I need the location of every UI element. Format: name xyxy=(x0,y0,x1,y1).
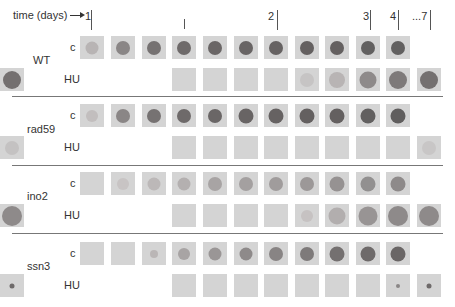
colony-spot xyxy=(3,71,21,89)
plate-tile xyxy=(172,204,196,227)
colony-spot xyxy=(117,178,129,190)
plate-tile xyxy=(325,274,349,297)
plate-tile xyxy=(264,274,288,297)
plate-tile xyxy=(111,172,135,195)
strain-label: ino2 xyxy=(27,190,48,202)
plate-tile xyxy=(325,68,349,91)
condition-label: c xyxy=(70,109,76,121)
plate-tile xyxy=(386,274,410,297)
colony-spot xyxy=(361,41,375,55)
colony-spot xyxy=(391,108,406,123)
plate-tile xyxy=(203,136,227,159)
plate-tile xyxy=(203,36,227,59)
panel-divider xyxy=(12,233,443,234)
plate-tile xyxy=(295,136,319,159)
day-tick xyxy=(277,10,278,30)
colony-spot xyxy=(420,71,438,89)
plate-tile xyxy=(142,172,166,195)
plate-tile xyxy=(142,36,166,59)
plate-tile xyxy=(234,274,258,297)
colony-spot xyxy=(116,41,130,55)
colony-spot xyxy=(396,284,400,288)
colony-spot xyxy=(388,206,408,226)
plate-tile xyxy=(356,68,380,91)
plate-tile xyxy=(356,172,380,195)
plate-tile xyxy=(0,68,24,91)
colony-spot xyxy=(391,176,406,191)
colony-spot xyxy=(389,71,407,89)
plate-tile xyxy=(356,204,380,227)
plate-tile xyxy=(172,242,196,265)
colony-spot xyxy=(240,247,253,260)
plate-tile xyxy=(0,204,24,227)
colony-spot xyxy=(2,206,22,226)
colony-spot xyxy=(208,109,222,123)
strain-label: ssn3 xyxy=(27,260,50,272)
plate-tile xyxy=(234,36,258,59)
plate-tile xyxy=(295,172,319,195)
colony-spot xyxy=(178,177,191,190)
colony-spot xyxy=(269,177,283,191)
plate-tile xyxy=(386,242,410,265)
plate-tile xyxy=(234,104,258,127)
plate-tile xyxy=(295,36,319,59)
plate-tile xyxy=(264,242,288,265)
colony-spot xyxy=(330,108,345,123)
colony-spot xyxy=(209,247,222,260)
colony-spot xyxy=(208,177,222,191)
colony-spot xyxy=(208,41,222,55)
colony-spot xyxy=(116,109,130,123)
plate-tile xyxy=(295,104,319,127)
plate-tile xyxy=(234,172,258,195)
colony-spot xyxy=(269,41,283,55)
plate-tile xyxy=(295,274,319,297)
plate-tile xyxy=(356,136,380,159)
plate-tile xyxy=(203,204,227,227)
plate-tile xyxy=(111,104,135,127)
plate-tile xyxy=(142,242,166,265)
colony-spot xyxy=(147,109,161,123)
plate-tile xyxy=(264,172,288,195)
plate-tile xyxy=(234,136,258,159)
plate-tile xyxy=(295,242,319,265)
plate-tile xyxy=(234,204,258,227)
colony-spot xyxy=(329,72,345,88)
colony-spot xyxy=(177,41,191,55)
plate-tile xyxy=(325,172,349,195)
colony-spot xyxy=(391,41,405,55)
plate-tile xyxy=(264,204,288,227)
plate-tile xyxy=(172,68,196,91)
condition-label: c xyxy=(70,177,76,189)
plate-tile xyxy=(386,204,410,227)
panel-divider xyxy=(12,96,443,97)
plate-tile xyxy=(172,104,196,127)
plate-tile xyxy=(172,136,196,159)
plate-tile xyxy=(417,204,441,227)
colony-spot xyxy=(86,41,99,54)
plate-tile xyxy=(356,104,380,127)
plate-tile xyxy=(417,274,441,297)
condition-label: HU xyxy=(64,141,80,153)
colony-spot xyxy=(301,210,313,222)
plate-tile xyxy=(172,274,196,297)
plate-tile xyxy=(203,104,227,127)
colony-spot xyxy=(427,283,432,288)
colony-spot xyxy=(239,41,253,55)
colony-spot xyxy=(300,73,314,87)
plate-tile xyxy=(80,36,104,59)
colony-spot xyxy=(360,71,377,88)
plate-tile xyxy=(325,104,349,127)
colony-spot xyxy=(300,177,314,191)
plate-tile xyxy=(80,172,104,195)
plate-tile xyxy=(386,136,410,159)
plate-tile xyxy=(325,136,349,159)
plate-tile xyxy=(234,242,258,265)
day-tick xyxy=(370,10,371,30)
colony-spot xyxy=(300,108,315,123)
day-marker-label: ...7 xyxy=(412,10,427,22)
condition-label: HU xyxy=(64,209,80,221)
panel-divider xyxy=(12,165,443,166)
plate-tile xyxy=(111,36,135,59)
plate-tile xyxy=(172,36,196,59)
plate-tile xyxy=(325,36,349,59)
